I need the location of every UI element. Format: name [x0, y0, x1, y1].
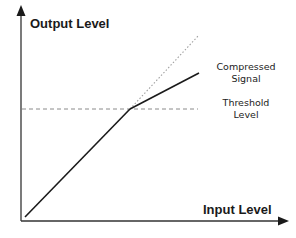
compressor-diagram: Output Level Input Level Compressed Sign…: [0, 0, 296, 238]
x-axis-arrow-icon: [278, 217, 289, 226]
uncompressed-extension-line: [130, 35, 199, 109]
compressed-signal-annotation: Compressed Signal: [206, 61, 286, 85]
compressed-segment: [130, 73, 199, 109]
threshold-annotation-line2: Level: [206, 109, 286, 121]
threshold-level-annotation: Threshold Level: [206, 97, 286, 121]
y-axis-arrow-icon: [17, 5, 26, 16]
threshold-annotation-line1: Threshold: [206, 97, 286, 109]
linear-segment: [25, 109, 130, 217]
x-axis-label: Input Level: [203, 202, 272, 217]
y-axis-label: Output Level: [30, 16, 109, 31]
compressed-annotation-line1: Compressed: [206, 61, 286, 73]
compressed-annotation-line2: Signal: [206, 73, 286, 85]
